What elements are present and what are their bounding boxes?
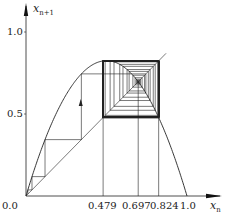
y-tick-label-1.0: 1.0 xyxy=(7,27,23,37)
y-axis-title: xn+1 xyxy=(33,3,54,17)
cobweb-lines xyxy=(28,61,159,196)
x-tick-label-0.479: 0.479 xyxy=(88,201,117,211)
cobweb-plot xyxy=(0,0,235,220)
x-tick-label-1.0: 1.0 xyxy=(180,201,196,211)
diagonal-line xyxy=(26,53,166,196)
curves xyxy=(26,53,187,196)
y-axis-arrow-icon xyxy=(24,3,28,16)
logistic-curve xyxy=(26,61,187,196)
upward-arrow-icon xyxy=(79,99,83,106)
y-tick-label-0.5: 0.5 xyxy=(7,109,23,119)
x-tick-label-0.0: 0.0 xyxy=(2,201,18,211)
x-tick-label-0.697: 0.697 xyxy=(122,201,151,211)
x-axis-arrow-icon xyxy=(206,194,222,198)
x-axis-title: xn xyxy=(210,200,221,214)
x-tick-label-0.824: 0.824 xyxy=(150,201,179,211)
